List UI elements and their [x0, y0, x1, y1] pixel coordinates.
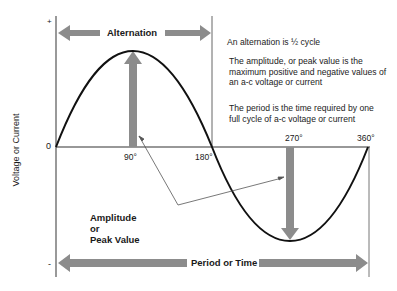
- negative-amplitude-arrow: [281, 147, 299, 240]
- x-tick-180: 180°: [195, 152, 213, 162]
- amplitude-label: Amplitude or Peak Value: [90, 212, 140, 245]
- x-tick-270: 270°: [285, 133, 303, 143]
- plus-label: +: [47, 17, 52, 26]
- minus-label: -: [48, 259, 51, 269]
- period-label: Period or Time: [191, 257, 257, 268]
- zero-label: 0: [46, 141, 51, 151]
- x-tick-90: 90°: [124, 152, 137, 162]
- x-tick-360: 360°: [357, 133, 375, 143]
- amplitude-note: The amplitude, or peak value is the maxi…: [229, 56, 387, 88]
- period-note: The period is the time required by one f…: [229, 103, 387, 124]
- y-axis-label: Voltage or Current: [11, 110, 21, 190]
- alternation-label: Alternation: [107, 27, 157, 38]
- amplitude-label-line1: Amplitude: [90, 212, 140, 223]
- sine-wave-diagram: [0, 0, 397, 291]
- positive-amplitude-arrow: [124, 51, 142, 147]
- amplitude-label-line3: Peak Value: [90, 234, 140, 245]
- amplitude-label-line2: or: [90, 223, 140, 234]
- alternation-note: An alternation is ½ cycle: [227, 37, 320, 48]
